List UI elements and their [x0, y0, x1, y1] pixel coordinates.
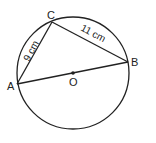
circle-geometry-diagram: A B C O 9 cm 11 cm — [0, 0, 156, 143]
center-point-o — [71, 71, 75, 75]
label-c: C — [47, 9, 55, 21]
side-ac-length: 9 cm — [21, 39, 41, 63]
label-o: O — [69, 76, 78, 88]
label-b: B — [131, 56, 138, 68]
label-a: A — [7, 80, 15, 92]
